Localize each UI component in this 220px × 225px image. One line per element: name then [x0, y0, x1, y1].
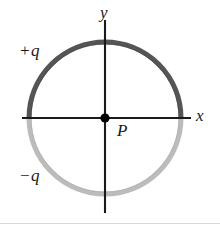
charged-ring-figure: x y +q −q P [0, 0, 220, 225]
negative-charge-label: −q [19, 167, 40, 184]
x-axis-label: x [196, 107, 204, 124]
center-point-label: P [117, 122, 127, 139]
bottom-divider [0, 223, 220, 224]
y-axis-label: y [100, 4, 108, 21]
positive-charge-label: +q [19, 42, 40, 59]
center-point-marker [100, 113, 109, 122]
figure-canvas [0, 0, 220, 225]
